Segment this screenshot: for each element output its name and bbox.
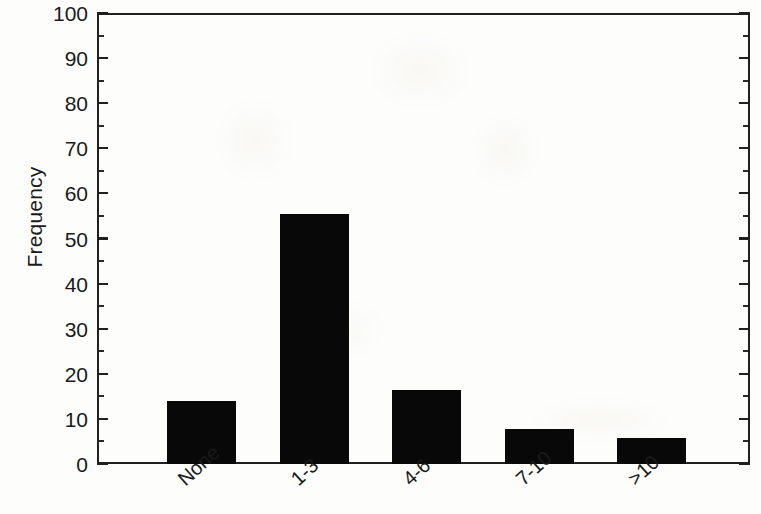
bar xyxy=(392,390,461,464)
y-axis-tick-label: 40 xyxy=(28,274,88,295)
bars-group xyxy=(97,13,750,464)
y-axis-tick-label: 80 xyxy=(28,93,88,114)
bar xyxy=(280,214,349,464)
y-axis-tick-label: 90 xyxy=(28,48,88,69)
y-axis-tick-label: 0 xyxy=(28,454,88,475)
y-axis-tick-label: 100 xyxy=(28,3,88,24)
y-axis-tick-label: 60 xyxy=(28,183,88,204)
y-axis-tick-label: 20 xyxy=(28,364,88,385)
y-axis-tick-label: 10 xyxy=(28,409,88,430)
y-axis-tick-label: 30 xyxy=(28,319,88,340)
y-axis-tick-label: 50 xyxy=(28,229,88,250)
y-axis-tick-label: 70 xyxy=(28,138,88,159)
bar-chart-figure: Frequency 0102030405060708090100 None1-3… xyxy=(0,0,761,514)
